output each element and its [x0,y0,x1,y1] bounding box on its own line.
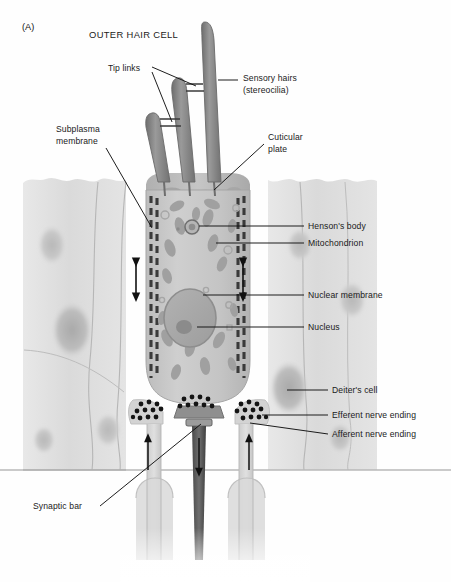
stereocilium-short [146,113,170,182]
deiters-nucleus [38,225,66,265]
stereocilium-tall [202,22,221,182]
stereocilia-bundle [146,22,221,196]
panel-label: (A) [22,22,34,32]
label-synaptic-bar: Synaptic bar [33,501,82,513]
nucleus [164,289,216,347]
synaptic-bar [186,419,212,426]
label-nucleus: Nucleus [308,322,340,334]
label-mitochondrion: Mitochondrion [308,238,363,250]
label-deiters-cell: Deiter's cell [332,385,377,397]
label-hensons-body: Henson's body [308,221,366,233]
label-subplasma-membrane: Subplasma membrane [56,124,100,147]
deiters-nucleus [270,361,308,415]
hair-cell-body [146,190,250,404]
stereocilium-medium [172,78,195,182]
label-cuticular-plate: Cuticular plate [268,132,303,155]
deiters-nucleus [95,413,121,447]
label-afferent-nerve-ending: Afferent nerve ending [332,429,416,441]
deiters-nucleus [33,426,55,454]
nucleolus [176,320,192,334]
deiters-nucleus [52,302,92,358]
label-tip-links: Tip links [108,63,140,75]
figure-canvas: (A) OUTER HAIR CELL Tip links Sensory ha… [0,0,451,582]
label-efferent-nerve-ending: Efferent nerve ending [332,410,416,422]
outer-hair-cell-diagram [0,0,451,582]
figure-title: OUTER HAIR CELL [89,29,178,41]
label-sensory-hairs: Sensory hairs (stereocilia) [243,73,297,96]
label-nuclear-membrane: Nuclear membrane [308,290,383,302]
